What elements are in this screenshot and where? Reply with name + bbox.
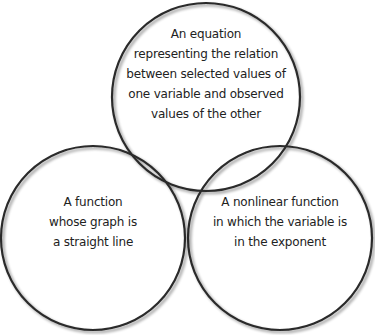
- top-circle-label: An equation representing the relation be…: [126, 24, 286, 124]
- venn-diagram: An equation representing the relation be…: [0, 0, 375, 335]
- label-line: whose graph is: [18, 212, 168, 232]
- label-line: A nonlinear function: [200, 192, 360, 212]
- left-circle-label: A function whose graph is a straight lin…: [18, 192, 168, 252]
- label-line: representing the relation: [126, 44, 286, 64]
- label-line: one variable and observed: [126, 84, 286, 104]
- label-line: An equation: [126, 24, 286, 44]
- label-line: A function: [18, 192, 168, 212]
- right-circle-label: A nonlinear function in which the variab…: [200, 192, 360, 252]
- label-line: in which the variable is: [200, 212, 360, 232]
- label-line: between selected values of: [126, 64, 286, 84]
- label-line: values of the other: [126, 104, 286, 124]
- label-line: in the exponent: [200, 232, 360, 252]
- label-line: a straight line: [18, 232, 168, 252]
